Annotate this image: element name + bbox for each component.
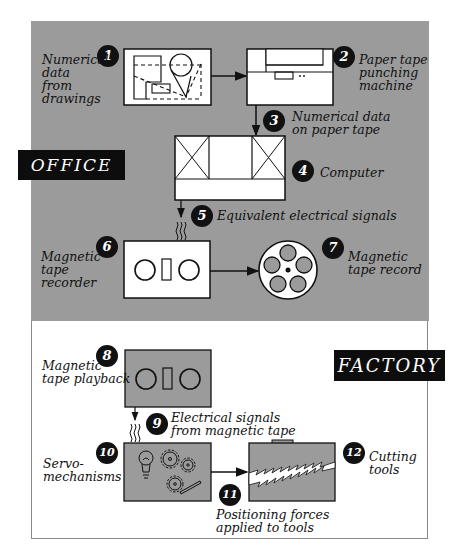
step-badge-7: 7 [322, 237, 344, 259]
factory-section-label: FACTORY [334, 350, 445, 381]
label-line: Equivalent electrical signals [217, 209, 417, 222]
label-line: drawings [42, 92, 102, 105]
label-line: applied to tools [216, 521, 336, 534]
label-line: machine [359, 79, 439, 92]
tape-playback-box [125, 350, 211, 407]
step-badge-5: 5 [191, 205, 213, 227]
label-line: on paper tape [292, 123, 392, 136]
step-label-2: Paper tape punching machine [359, 53, 439, 92]
step-label-4: Computer [320, 166, 400, 179]
step-label-3: Numerical data on paper tape [292, 110, 392, 136]
label-line: mechanisms [43, 470, 123, 483]
step-badge-12: 12 [343, 442, 365, 464]
step-label-7: Magnetic tape record [348, 250, 428, 276]
step-label-8: Magnetic tape playback [42, 359, 132, 385]
step-label-5: Equivalent electrical signals [217, 209, 417, 222]
step-badge-3: 3 [263, 110, 285, 132]
label-line: tools [369, 463, 429, 476]
step-label-10: Servo- mechanisms [43, 457, 123, 483]
cutting-tools-box [249, 440, 335, 501]
punching-machine-box [247, 49, 333, 105]
step-label-9: Electrical signals from magnetic tape [171, 411, 301, 437]
tape-reel-icon [259, 241, 317, 299]
step-label-11: Positioning forces applied to tools [216, 508, 336, 534]
computer-box [175, 136, 285, 200]
label-line: tape playback [42, 372, 132, 385]
servo-box [124, 443, 211, 501]
step-badge-11: 11 [219, 484, 241, 506]
label-line: tape record [348, 263, 428, 276]
signal-waves-icon [176, 222, 186, 240]
step-badge-2: 2 [333, 46, 355, 68]
office-section-label: OFFICE [18, 150, 125, 180]
drawing-box [124, 49, 211, 105]
tape-recorder-box [124, 241, 210, 298]
step-badge-9: 9 [146, 413, 168, 435]
signal-waves-icon [130, 424, 140, 442]
step-label-12: Cutting tools [369, 450, 429, 476]
label-line: tape recorder [41, 263, 121, 289]
label-line: data from [42, 66, 102, 92]
step-label-6: Magnetic tape recorder [41, 250, 121, 289]
step-label-1: Numerical data from drawings [42, 53, 102, 105]
label-line: from magnetic tape [171, 424, 301, 437]
step-badge-4: 4 [292, 160, 314, 182]
label-line: Computer [320, 166, 400, 179]
